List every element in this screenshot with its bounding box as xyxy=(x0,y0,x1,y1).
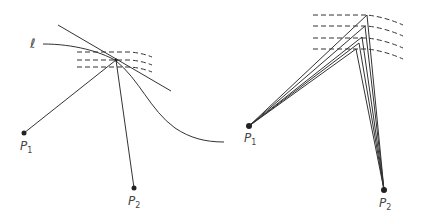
reflection-point xyxy=(115,59,118,62)
point-p2-left xyxy=(132,186,137,191)
ray-path-3 xyxy=(249,37,384,190)
point-p1-left xyxy=(22,131,27,136)
point-p2-right xyxy=(381,187,387,193)
curve-l xyxy=(43,44,224,142)
ray-p2 xyxy=(116,60,134,188)
ray-path-1 xyxy=(249,15,384,190)
label-p2-left: P2 xyxy=(128,194,140,210)
dashed-wavefront-r3 xyxy=(313,38,403,48)
right-figure xyxy=(249,15,403,190)
curve-label: ℓ xyxy=(29,36,35,51)
tangent-line xyxy=(58,25,171,91)
label-p1-right: P1 xyxy=(244,131,256,147)
point-p1-right xyxy=(246,123,252,129)
reflection-diagram: ℓ P1 P2 P1 P2 xyxy=(0,0,424,223)
ray-path-4 xyxy=(249,43,384,190)
dashed-wavefront-3 xyxy=(77,67,152,72)
dashed-wavefront-1 xyxy=(77,52,152,57)
label-p2-right: P2 xyxy=(379,196,391,212)
label-p1-left: P1 xyxy=(20,139,32,155)
dashed-wavefront-r2 xyxy=(313,26,403,36)
ray-p1 xyxy=(24,60,116,133)
left-figure xyxy=(24,25,224,188)
